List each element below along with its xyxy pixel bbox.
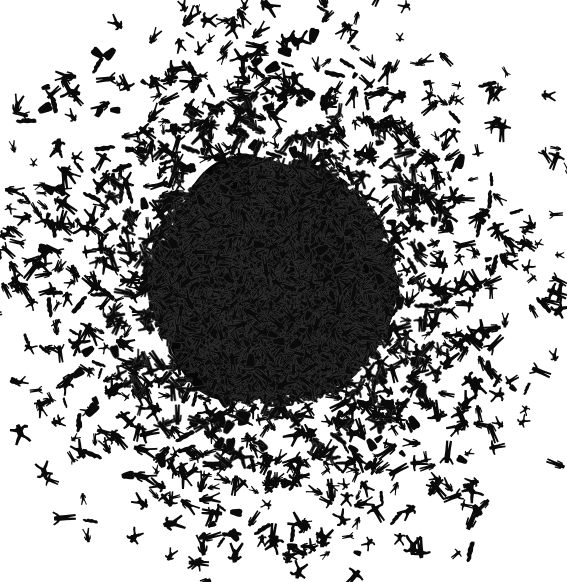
artwork-stage: Dense radial swarm of human silhouettes … xyxy=(0,0,567,582)
crowd-swarm-canvas xyxy=(0,0,567,582)
